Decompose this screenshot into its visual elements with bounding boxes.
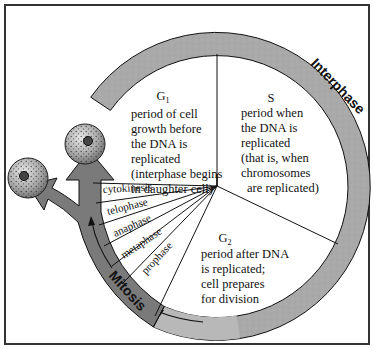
- svg-text:replicated: replicated: [131, 152, 181, 166]
- svg-text:period of cell: period of cell: [131, 107, 198, 121]
- svg-text:period when: period when: [241, 106, 304, 120]
- svg-text:are replicated): are replicated): [247, 181, 319, 195]
- svg-text:S: S: [268, 91, 275, 105]
- parent-cell: [65, 124, 105, 164]
- svg-text:chromosomes: chromosomes: [241, 166, 311, 180]
- svg-text:is replicated;: is replicated;: [201, 262, 265, 276]
- svg-text:growth before: growth before: [131, 122, 202, 136]
- svg-text:replicated: replicated: [241, 136, 291, 150]
- svg-text:(that is, when: (that is, when: [241, 151, 309, 165]
- daughter-cell: [8, 158, 48, 198]
- nucleus-icon: [20, 172, 29, 181]
- svg-text:(interphase begins: (interphase begins: [131, 167, 222, 181]
- cell-cycle-diagram: Interphase Mitosis G1 period of cell gro…: [0, 0, 374, 349]
- svg-text:for division: for division: [201, 292, 260, 306]
- svg-text:the DNA is: the DNA is: [241, 121, 297, 135]
- nucleus-icon: [84, 137, 93, 146]
- svg-text:cell prepares: cell prepares: [201, 277, 265, 291]
- svg-text:period after DNA: period after DNA: [201, 247, 289, 261]
- svg-text:the DNA is: the DNA is: [131, 137, 187, 151]
